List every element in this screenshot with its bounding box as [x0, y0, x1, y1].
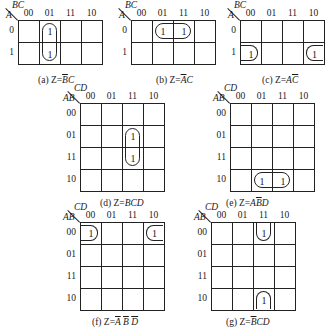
column-label: 01	[101, 210, 122, 220]
row-label: 01	[62, 249, 76, 259]
row-label: 11	[193, 271, 207, 281]
column-label: 00	[230, 91, 251, 101]
column-label: 01	[101, 91, 122, 101]
column-label: 10	[194, 8, 215, 18]
kmap-cell	[81, 148, 102, 170]
row-label: 10	[62, 293, 76, 303]
column-label: 10	[274, 210, 295, 220]
row-variable-label: AB	[63, 212, 75, 222]
kmap-caption: (f) Z=A B D	[92, 317, 138, 327]
kmap-cell	[61, 43, 82, 65]
kmap-cell	[294, 126, 315, 148]
kmap-cell	[233, 289, 254, 311]
row-variable-label: A	[228, 10, 234, 20]
row-label: 01	[62, 130, 76, 140]
kmap-cell	[144, 148, 165, 170]
kmap-cell	[212, 245, 233, 267]
kmap-cell	[123, 223, 144, 245]
column-label: 10	[143, 91, 164, 101]
grouping-loop	[256, 291, 271, 309]
kmap-caption: (g) Z=BCD	[226, 317, 270, 327]
kmap-cell	[81, 245, 102, 267]
row-label: 01	[193, 249, 207, 259]
row-label: 10	[212, 174, 226, 184]
row-variable-label: AB	[213, 93, 225, 103]
column-label: 10	[143, 210, 164, 220]
caption-prefix: (c) Z=	[262, 75, 286, 85]
kmap-cell	[19, 21, 40, 43]
kmap-cell	[212, 289, 233, 311]
column-label: 00	[18, 8, 39, 18]
caption-term: D	[262, 198, 269, 208]
kmap-cell	[102, 126, 123, 148]
kmap-cell	[102, 289, 123, 311]
row-label: 10	[62, 174, 76, 184]
caption-prefix: (b) Z=	[156, 75, 181, 85]
kmap-cell	[241, 21, 262, 43]
kmap-grid: 11	[211, 222, 296, 311]
caption-term: C	[292, 75, 298, 85]
row-variable-label: AB	[194, 212, 206, 222]
kmap-grid: 11	[18, 20, 103, 65]
kmap-cell	[81, 289, 102, 311]
grouping-loop	[155, 23, 191, 39]
row-label: 00	[62, 108, 76, 118]
row-label: 10	[193, 293, 207, 303]
kmap-cell	[231, 126, 252, 148]
kmap-cell	[275, 245, 296, 267]
row-label: 11	[212, 152, 226, 162]
kmap-cell	[233, 223, 254, 245]
row-label: 1	[222, 47, 236, 57]
column-label: 01	[152, 8, 173, 18]
kmap-cell	[132, 43, 153, 65]
column-label: 00	[211, 210, 232, 220]
kmap-cell	[275, 223, 296, 245]
kmap-caption: (c) Z=AC	[262, 75, 298, 85]
column-label: 00	[131, 8, 152, 18]
kmap-cell	[231, 104, 252, 126]
row-label: 11	[62, 271, 76, 281]
kmap-cell	[283, 21, 304, 43]
kmap-cell	[144, 126, 165, 148]
kmap-cell	[254, 245, 275, 267]
kmap-cell	[123, 289, 144, 311]
kmap-cell	[252, 104, 273, 126]
kmap-cell	[123, 267, 144, 289]
kmap-cell	[262, 21, 283, 43]
kmap-cell	[123, 104, 144, 126]
kmap-cell	[252, 148, 273, 170]
kmap-cell	[132, 21, 153, 43]
column-label: 10	[293, 91, 314, 101]
row-variable-label: A	[119, 10, 125, 20]
caption-term: D	[131, 317, 138, 327]
row-label: 0	[113, 25, 127, 35]
kmap-grid: 11	[80, 103, 165, 192]
caption-prefix: (e) Z=	[226, 198, 250, 208]
kmap-cell	[82, 21, 103, 43]
row-label: 01	[212, 130, 226, 140]
kmap-cell	[275, 289, 296, 311]
kmap-cell	[275, 267, 296, 289]
caption-term: B	[123, 317, 129, 327]
row-label: 00	[212, 108, 226, 118]
kmap-cell	[102, 170, 123, 192]
column-label: 11	[122, 210, 143, 220]
kmap-cell	[195, 21, 216, 43]
kmap-cell	[102, 148, 123, 170]
kmap-cell	[273, 104, 294, 126]
kmap-cell	[144, 245, 165, 267]
kmap-cell	[294, 148, 315, 170]
kmap-cell	[231, 148, 252, 170]
column-label: 00	[80, 210, 101, 220]
kmap-cell	[212, 267, 233, 289]
kmap-cell	[212, 223, 233, 245]
caption-prefix: (d) Z=	[100, 198, 125, 208]
grouping-loop	[42, 23, 57, 61]
grouping-loop	[125, 128, 140, 166]
row-label: 11	[62, 152, 76, 162]
row-variable-label: A	[6, 10, 12, 20]
kmap-cell	[81, 126, 102, 148]
kmap-cell	[174, 43, 195, 65]
column-label: 11	[60, 8, 81, 18]
kmap-cell	[102, 267, 123, 289]
